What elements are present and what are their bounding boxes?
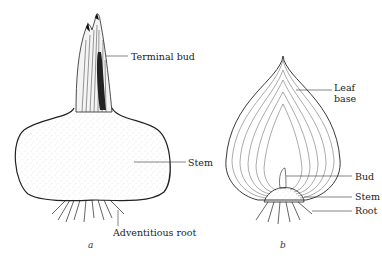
- label-root: Root: [355, 206, 377, 216]
- label-terminal-bud: Terminal bud: [131, 52, 195, 62]
- caption-b: b: [280, 240, 286, 250]
- diagram-canvas: [0, 0, 382, 258]
- label-leaf-base: base: [334, 94, 356, 104]
- corm-figure-a: [15, 13, 186, 226]
- caption-a: a: [88, 240, 93, 250]
- label-adventitious-root: Adventitious root: [113, 228, 196, 238]
- label-stem-b: Stem: [355, 192, 380, 202]
- label-stem-a: Stem: [188, 158, 213, 168]
- label-leaf: Leaf: [334, 83, 355, 93]
- label-bud: Bud: [355, 172, 374, 182]
